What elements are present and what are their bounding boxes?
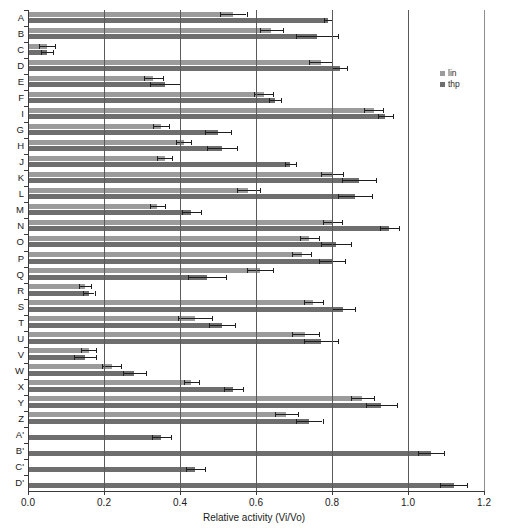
y-tick-label: X	[2, 382, 24, 392]
error-bar-thp	[207, 148, 237, 149]
legend-item-thp: thp	[440, 79, 460, 90]
error-bar-lin	[292, 254, 311, 255]
bar-thp	[28, 226, 389, 231]
x-tick-label: 1.2	[464, 497, 504, 509]
bar-thp	[28, 419, 309, 424]
error-cap-thp	[338, 339, 339, 344]
error-bar-lin	[150, 206, 165, 207]
bar-lin	[28, 204, 157, 209]
error-cap-thp	[304, 339, 305, 344]
error-cap-thp	[372, 194, 373, 199]
error-bar-lin	[309, 62, 332, 63]
bar-lin	[28, 188, 248, 193]
error-cap-thp	[338, 34, 339, 39]
bar-thp	[28, 130, 218, 135]
y-tick-label: Q	[2, 270, 24, 280]
error-bar-thp	[150, 84, 180, 85]
error-bar-lin	[260, 30, 283, 31]
x-tick	[28, 491, 29, 495]
error-cap-lin	[150, 204, 151, 209]
error-bar-lin	[178, 318, 212, 319]
error-cap-thp	[324, 18, 325, 23]
error-cap-lin	[260, 188, 261, 193]
error-cap-thp	[152, 435, 153, 440]
y-axis-labels: ABCDEFIGHJKLMNOPQRSTUVWXYZA'B'C'D'	[0, 10, 24, 491]
error-cap-lin	[247, 12, 248, 17]
error-cap-thp	[467, 483, 468, 488]
bar-lin	[28, 332, 305, 337]
y-tick-label: C	[2, 45, 24, 55]
x-tick	[408, 491, 409, 495]
bar-thp	[28, 451, 431, 456]
error-cap-lin	[292, 252, 293, 257]
bar-chart: ABCDEFIGHJKLMNOPQRSTUVWXYZA'B'C'D' 0.00.…	[0, 0, 508, 529]
error-cap-thp	[243, 387, 244, 392]
error-cap-lin	[220, 12, 221, 17]
error-cap-thp	[171, 435, 172, 440]
bar-thp	[28, 339, 321, 344]
x-tick	[332, 491, 333, 495]
error-cap-thp	[146, 371, 147, 376]
y-tick-label: B	[2, 29, 24, 39]
error-cap-lin	[96, 348, 97, 353]
bar-lin	[28, 236, 309, 241]
bar-lin	[28, 396, 362, 401]
error-bar-lin	[304, 302, 323, 303]
error-cap-lin	[237, 188, 238, 193]
error-bar-thp	[74, 357, 97, 358]
error-cap-lin	[342, 220, 343, 225]
bar-thp	[28, 387, 233, 392]
bar-lin	[28, 252, 302, 257]
error-cap-lin	[304, 300, 305, 305]
error-cap-thp	[397, 403, 398, 408]
bar-thp	[28, 82, 165, 87]
error-cap-thp	[201, 210, 202, 215]
error-cap-thp	[342, 178, 343, 183]
error-cap-lin	[300, 236, 301, 241]
error-cap-lin	[169, 124, 170, 129]
error-cap-thp	[237, 146, 238, 151]
error-cap-lin	[273, 92, 274, 97]
error-cap-thp	[444, 451, 445, 456]
error-cap-lin	[383, 108, 384, 113]
error-cap-lin	[212, 316, 213, 321]
gridline	[332, 10, 333, 491]
x-tick-label: 0.4	[160, 497, 200, 509]
error-cap-thp	[351, 242, 352, 247]
bar-thp	[28, 483, 454, 488]
legend-label-thp: thp	[448, 79, 460, 90]
bar-lin	[28, 156, 165, 161]
error-bar-thp	[83, 293, 94, 294]
y-tick-label: J	[2, 157, 24, 167]
y-tick-label: Y	[2, 398, 24, 408]
error-bar-lin	[81, 350, 96, 351]
bar-thp	[28, 323, 222, 328]
error-cap-lin	[311, 252, 312, 257]
x-tick	[104, 491, 105, 495]
error-cap-thp	[281, 98, 282, 103]
x-tick-label: 1.0	[388, 497, 428, 509]
error-bar-thp	[188, 277, 226, 278]
gridline	[104, 10, 105, 491]
error-cap-thp	[188, 275, 189, 280]
error-cap-thp	[347, 66, 348, 71]
error-cap-lin	[309, 60, 310, 65]
gridline	[256, 10, 257, 491]
y-tick-label: V	[2, 350, 24, 360]
error-cap-lin	[55, 44, 56, 49]
error-bar-thp	[123, 373, 146, 374]
y-tick-label: A	[2, 13, 24, 23]
error-cap-lin	[176, 140, 177, 145]
x-tick	[256, 491, 257, 495]
error-bar-thp	[321, 244, 351, 245]
error-bar-lin	[220, 14, 247, 15]
bar-lin	[28, 268, 260, 273]
gridline	[484, 10, 485, 491]
error-bar-lin	[39, 46, 54, 47]
bar-thp	[28, 98, 275, 103]
error-bar-lin	[351, 398, 374, 399]
bar-thp	[28, 307, 343, 312]
error-bar-thp	[285, 164, 296, 165]
bar-lin	[28, 28, 271, 33]
bar-lin	[28, 380, 191, 385]
